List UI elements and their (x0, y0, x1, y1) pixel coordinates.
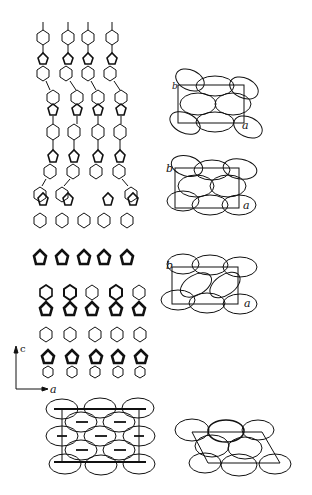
unit-cell-panel-3 (161, 254, 257, 314)
panel-3-label-a: a (244, 298, 251, 309)
axis-label-c: c (20, 344, 26, 354)
panel-2-label-b: b (166, 163, 173, 174)
panel-3-label-b: b (166, 260, 173, 271)
crystal-figure (0, 0, 312, 495)
panel-1-label-b: b (172, 82, 178, 91)
unit-cell-panel-4 (46, 398, 155, 475)
panel-2-label-a: a (243, 200, 250, 211)
molecular-columns (34, 22, 147, 378)
unit-cell-panel-5 (175, 419, 291, 476)
panel-1-label-a: a (242, 120, 249, 131)
unit-cell-panel-1 (166, 65, 266, 143)
axis-label-a: a (50, 384, 57, 395)
